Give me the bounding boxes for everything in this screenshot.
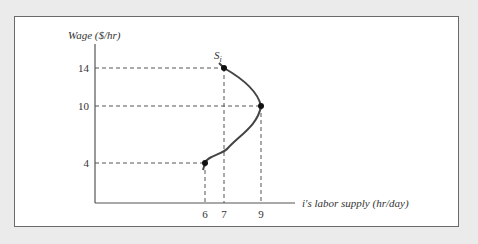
point-9-10	[258, 103, 264, 109]
point-7-14	[221, 65, 227, 71]
x-tick-7: 7	[221, 208, 227, 220]
x-axis-label: i's labor supply (hr/day)	[302, 197, 409, 210]
y-tick-4: 4	[84, 157, 90, 169]
y-tick-14: 14	[78, 62, 90, 74]
supply-curve	[203, 63, 261, 170]
curve-label: Si	[214, 49, 222, 64]
labor-supply-chart: Wage ($/hr) i's labor supply (hr/day) Si…	[0, 0, 478, 244]
y-tick-10: 10	[78, 100, 90, 112]
x-tick-9: 9	[258, 208, 264, 220]
y-axis-label: Wage ($/hr)	[68, 29, 121, 42]
point-6-4	[202, 160, 208, 166]
guide-lines	[95, 68, 261, 203]
x-tick-6: 6	[202, 208, 208, 220]
